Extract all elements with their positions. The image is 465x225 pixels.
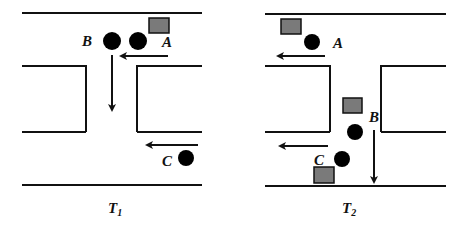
label-b: B	[368, 109, 379, 125]
vehicle-b	[343, 98, 362, 113]
right-block-edge	[381, 66, 446, 132]
left-block-edge	[22, 66, 86, 132]
agent-c	[178, 150, 194, 166]
label-a: A	[161, 34, 172, 50]
panel-t1: B A C T1	[22, 13, 202, 218]
agent-b	[103, 32, 121, 50]
vehicle-c	[314, 167, 334, 183]
label-c: C	[162, 153, 173, 169]
label-c: C	[314, 152, 325, 168]
intersection-diagram: B A C T1 A B C T2	[0, 0, 465, 225]
vehicle-a	[281, 19, 301, 34]
caption-t2: T2	[342, 200, 356, 218]
panel-t2: A B C T2	[265, 14, 446, 218]
agent-c	[334, 151, 350, 167]
label-b: B	[81, 33, 92, 49]
caption-t1: T1	[108, 200, 122, 218]
vehicle-a	[149, 18, 169, 33]
agent-b	[347, 124, 363, 140]
agent-a	[129, 32, 147, 50]
left-block-edge	[265, 66, 330, 132]
agent-a	[304, 34, 320, 50]
right-block-edge	[137, 66, 202, 132]
label-a: A	[332, 35, 343, 51]
